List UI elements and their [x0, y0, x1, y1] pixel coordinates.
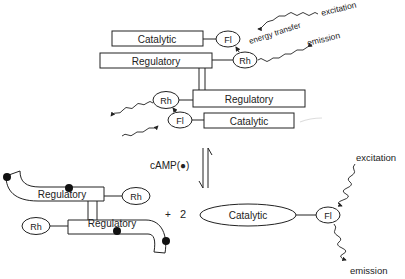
regulatory-label: Regulatory — [132, 56, 180, 67]
catalytic-label: Catalytic — [229, 210, 267, 221]
emission-label: emission — [306, 30, 341, 48]
rh-label: Rh — [130, 192, 142, 202]
fret-cAMP-diagram: Catalytic Fl Regulatory Rh excitation en… — [0, 0, 405, 279]
energy-transfer-label: energy transfer — [248, 21, 302, 46]
regulatory-label: Regulatory — [38, 189, 86, 200]
equilibrium: cAMP(●) — [150, 148, 212, 188]
camp-bound-dot — [65, 184, 73, 192]
camp-label: cAMP(●) — [150, 160, 189, 171]
regulatory-dimer: Regulatory Rh Regulatory Rh — [3, 171, 170, 253]
catalytic-label: Catalytic — [230, 116, 268, 127]
emission-wave-top — [258, 46, 312, 62]
rh-label: Rh — [160, 96, 172, 106]
regulatory-label: Regulatory — [88, 218, 136, 229]
fl-label: Fl — [324, 211, 332, 221]
camp-bound-dot — [162, 237, 170, 245]
excitation-label: excitation — [356, 152, 396, 163]
stoichiometry-2: 2 — [180, 208, 186, 220]
emission-wave-free — [334, 224, 346, 260]
free-catalytic: Catalytic Fl excitation emission — [200, 152, 396, 276]
top-holoenzyme: Catalytic Fl Regulatory Rh excitation en… — [100, 0, 358, 90]
rh-label: Rh — [30, 222, 42, 232]
fl-label: Fl — [224, 35, 232, 45]
emission-label: emission — [350, 265, 388, 276]
emission-wave-lower — [111, 102, 153, 117]
camp-bound-dot — [3, 173, 11, 181]
excitation-wave-free — [338, 164, 355, 206]
plus-sign: + — [165, 209, 171, 220]
energy-transfer-arrow — [236, 47, 239, 52]
excitation-wave-lower — [122, 126, 158, 136]
rh-label: Rh — [239, 56, 251, 66]
catalytic-label: Catalytic — [138, 34, 176, 45]
camp-bound-dot — [113, 227, 121, 235]
regulatory-label: Regulatory — [225, 94, 273, 105]
scan-artifact — [300, 118, 322, 122]
fl-label: Fl — [176, 116, 184, 126]
excitation-label: excitation — [320, 0, 358, 18]
lower-holoenzyme: Regulatory Rh Catalytic Fl — [111, 90, 305, 136]
